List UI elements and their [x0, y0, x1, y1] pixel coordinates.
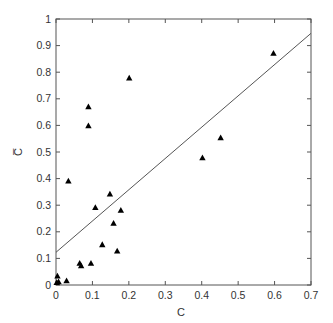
y-axis-label: C̅: [12, 148, 24, 156]
data-point-triangle: [88, 260, 94, 266]
data-point-triangle: [110, 220, 116, 226]
data-point-triangle: [65, 178, 71, 184]
data-point-triangle: [85, 122, 91, 128]
x-tick-label: 0.7: [304, 289, 319, 301]
data-point-triangle: [118, 207, 124, 213]
y-tick-label: 0.3: [36, 199, 51, 211]
x-tick-label: 0.5: [231, 289, 246, 301]
y-tick-label: 0.7: [36, 92, 51, 104]
fit-line: [56, 33, 311, 252]
x-tick-label: 0.6: [267, 289, 282, 301]
regression-line: [56, 33, 311, 252]
data-point-triangle: [92, 204, 98, 210]
data-point-triangle: [199, 154, 205, 160]
y-tick-label: 0.6: [36, 119, 51, 131]
y-tick-label: 0.2: [36, 225, 51, 237]
x-tick-label: 0: [53, 289, 59, 301]
y-tick-label: 0.5: [36, 146, 51, 158]
y-tick-label: 0.4: [36, 172, 51, 184]
x-tick-label: 0.1: [85, 289, 100, 301]
x-tick-label: 0.3: [158, 289, 173, 301]
data-point-triangle: [99, 241, 105, 247]
data-point-triangle: [270, 50, 276, 56]
y-tick-label: 0.9: [36, 39, 51, 51]
y-tick-label: 0: [45, 279, 51, 291]
data-point-triangle: [54, 273, 60, 279]
chart-canvas: 00.10.20.30.40.50.60.7 00.10.20.30.40.50…: [0, 0, 333, 323]
data-points: [54, 50, 277, 285]
x-axis-label: C: [177, 306, 185, 318]
plot-frame: [56, 19, 311, 285]
data-point-triangle: [107, 191, 113, 197]
y-tick-label: 0.8: [36, 66, 51, 78]
data-point-triangle: [126, 75, 132, 81]
y-tick-label: 1: [45, 13, 51, 25]
data-point-triangle: [85, 104, 91, 110]
x-tick-label: 0.4: [194, 289, 209, 301]
data-point-triangle: [114, 248, 120, 254]
scatter-chart: 00.10.20.30.40.50.60.7 00.10.20.30.40.50…: [0, 0, 333, 323]
plot-border: [56, 19, 311, 285]
data-point-triangle: [217, 134, 223, 140]
y-tick-label: 0.1: [36, 252, 51, 264]
data-point-triangle: [63, 278, 69, 284]
x-tick-label: 0.2: [122, 289, 137, 301]
